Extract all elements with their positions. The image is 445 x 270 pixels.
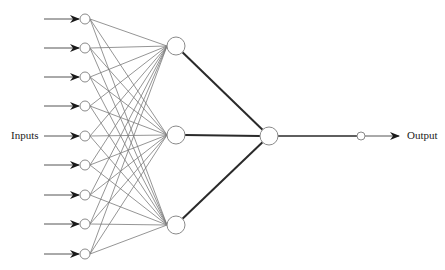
output-node	[357, 132, 365, 140]
connection-edge	[90, 46, 167, 165]
input-layer-nodes	[80, 14, 90, 259]
connection-edge	[90, 225, 167, 254]
weighted-connection-edge	[182, 52, 262, 129]
input-node	[80, 101, 90, 111]
input-node	[80, 43, 90, 53]
weighted-connection-edge	[185, 135, 260, 136]
input-node	[80, 14, 90, 24]
hidden-to-combiner-connections	[182, 52, 262, 219]
input-node	[80, 190, 90, 200]
connection-edge	[90, 135, 167, 195]
output-node	[357, 132, 365, 140]
connection-edge	[90, 19, 167, 46]
connection-edge	[90, 135, 167, 224]
output-label: Output	[407, 130, 438, 141]
connection-edge	[90, 46, 167, 195]
hidden-node	[167, 216, 185, 234]
inputs-label: Inputs	[11, 130, 39, 141]
connection-edge	[90, 195, 167, 225]
connection-edge	[90, 46, 167, 106]
input-node	[80, 160, 90, 170]
connection-edge	[90, 224, 167, 225]
connection-edge	[90, 48, 167, 225]
hidden-node	[167, 37, 185, 55]
hidden-node	[167, 126, 185, 144]
input-node	[80, 219, 90, 229]
connection-edge	[90, 46, 167, 48]
combiner-node	[260, 127, 278, 145]
weighted-connection-edge	[183, 142, 263, 219]
hidden-layer-nodes	[167, 37, 185, 234]
input-to-hidden-connections	[90, 19, 167, 254]
input-arrows	[44, 19, 79, 254]
neural-network-diagram	[0, 0, 445, 270]
combiner-node	[260, 127, 278, 145]
input-node	[80, 72, 90, 82]
input-node	[80, 249, 90, 259]
input-node	[80, 131, 90, 141]
